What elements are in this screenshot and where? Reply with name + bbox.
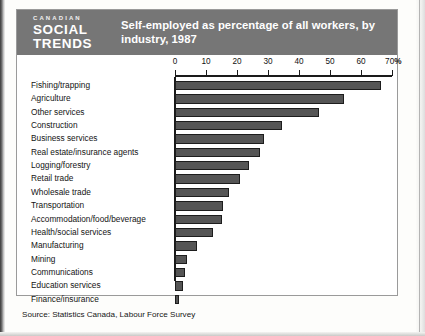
chart-figure: CANADIAN SOCIAL TRENDS Self-employed as …: [16, 9, 398, 296]
logo-line-trends: TRENDS: [33, 37, 121, 51]
x-tick-label: 40: [294, 57, 303, 66]
bar: [175, 134, 264, 143]
category-label: Accommodation/food/beverage: [31, 213, 163, 226]
x-tick-label: 50: [325, 57, 334, 66]
bar: [175, 295, 179, 304]
category-label: Business services: [31, 132, 163, 145]
bar: [175, 241, 197, 250]
bar: [175, 188, 229, 197]
canadian-social-trends-logo: CANADIAN SOCIAL TRENDS: [17, 15, 121, 51]
bar: [175, 161, 249, 170]
x-tick-label: 30: [263, 57, 272, 66]
logo-line-canadian: CANADIAN: [33, 15, 121, 21]
x-axis-unit: %: [394, 57, 401, 66]
category-label: Manufacturing: [31, 239, 163, 252]
bar: [175, 215, 222, 224]
bar: [175, 174, 240, 183]
category-label: Other services: [31, 106, 163, 119]
category-label: Finance/insurance: [31, 293, 163, 306]
category-label: Retail trade: [31, 172, 163, 185]
bar: [175, 228, 213, 237]
category-label: Communications: [31, 266, 163, 279]
category-label: Health/social services: [31, 226, 163, 239]
x-tick-label: 60: [356, 57, 365, 66]
bar: [175, 148, 260, 157]
x-tick-label: 20: [232, 57, 241, 66]
bar: [175, 108, 319, 117]
bar: [175, 268, 185, 277]
x-tick-label: 0: [173, 57, 178, 66]
chart-title: Self-employed as percentage of all worke…: [121, 19, 397, 46]
figure-header: CANADIAN SOCIAL TRENDS Self-employed as …: [17, 10, 397, 55]
x-tick-label: 10: [201, 57, 210, 66]
category-label: Logging/forestry: [31, 159, 163, 172]
bars-container: Fishing/trappingAgricultureOther service…: [17, 77, 397, 295]
category-label: Agriculture: [31, 92, 163, 105]
bar: [175, 81, 381, 90]
scan-edge-left: [0, 0, 5, 336]
x-tick-mark: [392, 70, 393, 76]
bar: [175, 201, 223, 210]
category-label: Real estate/insurance agents: [31, 146, 163, 159]
bar: [175, 281, 183, 290]
scanned-page: CANADIAN SOCIAL TRENDS Self-employed as …: [0, 0, 425, 336]
category-label: Construction: [31, 119, 163, 132]
category-label: Education services: [31, 279, 163, 292]
category-label: Mining: [31, 253, 163, 266]
chart-plot-region: 010203040506070% Fishing/trappingAgricul…: [17, 55, 397, 295]
category-label: Fishing/trapping: [31, 79, 163, 92]
scan-edge-right: [416, 0, 425, 336]
category-label: Transportation: [31, 199, 163, 212]
x-tick-label: 70%: [385, 57, 401, 66]
source-note: Source: Statistics Canada, Labour Force …: [22, 310, 195, 319]
logo-line-social: SOCIAL: [33, 23, 121, 37]
bar: [175, 94, 344, 103]
category-label: Wholesale trade: [31, 186, 163, 199]
bar: [175, 255, 187, 264]
scan-edge-bottom: [0, 332, 425, 336]
bar: [175, 121, 282, 130]
